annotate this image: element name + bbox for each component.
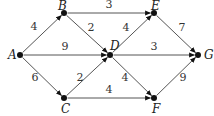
edge-weight-label: 9 xyxy=(62,40,69,53)
node-label: D xyxy=(109,39,120,53)
edge-weight-label: 4 xyxy=(106,83,113,96)
edge-d-f xyxy=(113,57,152,95)
edge-a-c xyxy=(23,57,62,95)
edge-weight-label: 2 xyxy=(88,21,95,34)
edge-weight-label: 4 xyxy=(123,21,130,34)
node-c xyxy=(61,95,67,101)
node-label: F xyxy=(151,102,161,116)
node-g xyxy=(195,52,201,58)
edge-weight-label: 4 xyxy=(31,20,38,33)
node-f xyxy=(151,95,157,101)
node-label: A xyxy=(7,48,17,62)
edge-weight-label: 3 xyxy=(151,40,158,53)
node-label: C xyxy=(61,102,70,116)
graph-diagram: 496322443479 ABCDEFG xyxy=(0,0,214,116)
edge-weight-label: 7 xyxy=(179,21,186,34)
edge-weight-label: 9 xyxy=(180,71,187,84)
edge-weight-label: 6 xyxy=(32,71,39,84)
edge-weight-label: 2 xyxy=(77,71,84,84)
node-a xyxy=(17,52,23,58)
edge-weight-label: 4 xyxy=(122,71,129,84)
edge-a-b xyxy=(23,15,62,52)
edge-c-d xyxy=(67,57,108,95)
node-label: B xyxy=(57,0,67,13)
edge-e-g xyxy=(157,15,196,52)
node-label: G xyxy=(204,48,214,62)
node-label: E xyxy=(150,0,160,13)
edge-weight-label: 3 xyxy=(106,0,113,11)
edge-f-g xyxy=(157,57,196,95)
